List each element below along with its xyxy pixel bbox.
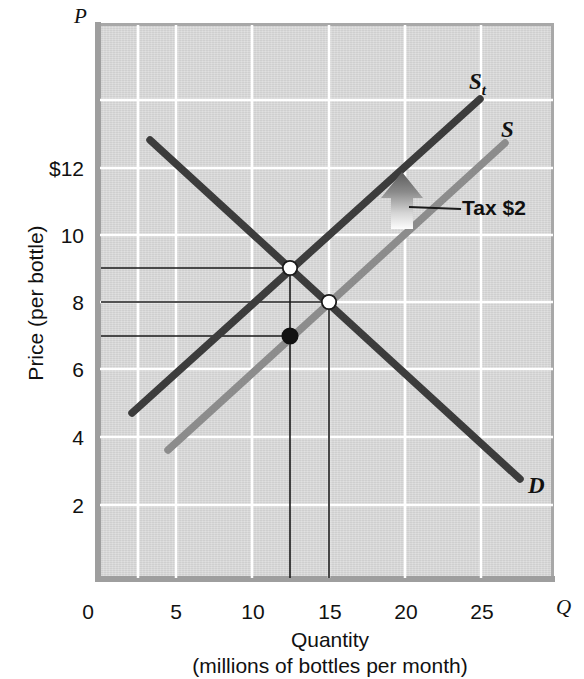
supply-after-tax-label: St xyxy=(469,70,486,98)
tax-amount-label: Tax $2 xyxy=(462,197,526,218)
x-tick-20: 20 xyxy=(394,601,417,622)
reference-lines xyxy=(101,268,329,578)
x-tick-10: 10 xyxy=(241,601,264,622)
marker-new-equilibrium xyxy=(283,261,297,275)
supply-curve xyxy=(168,143,505,450)
y-axis-title: Price (per bottle) xyxy=(24,203,48,403)
y-tick-12: $12 xyxy=(18,158,84,179)
supply-after-tax-curve xyxy=(132,99,480,413)
x-axis-letter: Q xyxy=(556,597,571,618)
demand-label: D xyxy=(528,474,545,497)
x-axis-title-line1: Quantity xyxy=(180,629,480,650)
supply-after-tax-label-subscript: t xyxy=(482,82,486,98)
marker-original-equilibrium xyxy=(322,295,336,309)
supply-after-tax-label-text: S xyxy=(469,69,482,94)
demand-curve xyxy=(150,140,520,479)
supply-label: S xyxy=(501,118,514,141)
y-tick-2: 2 xyxy=(18,495,84,516)
x-tick-15: 15 xyxy=(318,601,341,622)
y-axis-letter: P xyxy=(74,6,87,27)
plot-vector-layer xyxy=(0,0,584,679)
x-tick-0: 0 xyxy=(82,601,94,622)
marker-seller-price xyxy=(282,328,298,344)
x-tick-5: 5 xyxy=(170,601,182,622)
x-axis-title-line2: (millions of bottles per month) xyxy=(180,655,480,676)
y-tick-4: 4 xyxy=(18,427,84,448)
x-tick-25: 25 xyxy=(470,601,493,622)
tax-callout-leader-line xyxy=(409,207,461,209)
supply-demand-tax-figure: P Q $12 10 8 6 4 2 0 5 10 15 20 25 St S … xyxy=(0,0,584,679)
